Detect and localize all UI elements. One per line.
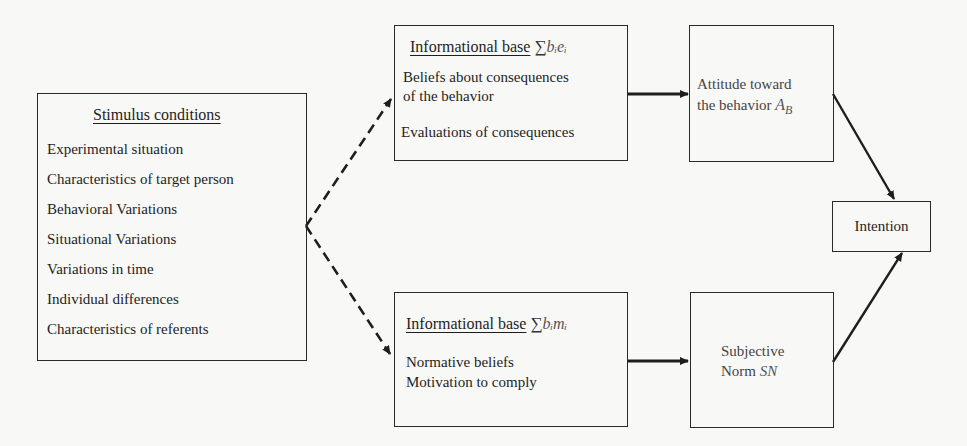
arrow-stimulus-to-info-attitude <box>306 99 391 226</box>
stimulus-item: Situational Variations <box>47 232 176 247</box>
attitude-symbol: AB <box>775 96 792 113</box>
intention-label: Intention <box>833 219 930 234</box>
subjective-norm-box: Subjective Norm SN <box>690 292 834 428</box>
info-base-norm-heading: Informational base ∑bᵢmᵢ <box>406 315 567 332</box>
info-base-attitude-line: Evaluations of consequences <box>401 125 574 140</box>
formula-bi-ei: bᵢeᵢ <box>547 38 567 55</box>
stimulus-item: Variations in time <box>47 262 154 277</box>
attitude-symbol-main: A <box>775 96 785 113</box>
arrow-stimulus-to-info-norm <box>306 226 390 354</box>
info-base-norm-box: Informational base ∑bᵢmᵢ Normative belie… <box>394 292 628 427</box>
info-base-attitude-line: of the behavior <box>403 89 494 104</box>
stimulus-title: Stimulus conditions <box>93 107 221 123</box>
attitude-symbol-sub: B <box>785 103 792 117</box>
attitude-line2-text: the behavior <box>697 97 772 113</box>
stimulus-item: Experimental situation <box>47 142 183 157</box>
info-base-attitude-box: Informational base ∑bᵢeᵢ Beliefs about c… <box>394 25 628 161</box>
stimulus-item: Behavioral Variations <box>47 202 177 217</box>
info-base-attitude-heading: Informational base ∑bᵢeᵢ <box>410 38 567 55</box>
arrow-norm-to-intention <box>833 253 902 362</box>
arrow-attitude-to-intention <box>833 94 894 199</box>
formula-bi-mi: bᵢmᵢ <box>543 315 568 332</box>
stimulus-item: Characteristics of target person <box>47 172 234 187</box>
stimulus-item: Characteristics of referents <box>47 322 209 337</box>
attitude-line2: the behavior AB <box>697 97 792 116</box>
info-base-attitude-line: Beliefs about consequences <box>403 70 569 85</box>
norm-symbol: SN <box>760 363 778 379</box>
norm-line2: Norm SN <box>721 364 777 379</box>
sigma-symbol: ∑ <box>530 314 542 333</box>
info-base-norm-line: Motivation to comply <box>406 375 537 390</box>
attitude-box: Attitude toward the behavior AB <box>689 25 834 162</box>
info-base-norm-title: Informational base <box>406 315 526 332</box>
stimulus-conditions-box: Stimulus conditions Experimental situati… <box>37 93 307 361</box>
sigma-symbol: ∑ <box>534 37 546 56</box>
intention-box: Intention <box>832 201 931 252</box>
norm-line2-text: Norm <box>721 363 756 379</box>
info-base-attitude-title: Informational base <box>410 38 530 55</box>
norm-line1: Subjective <box>721 344 784 359</box>
info-base-norm-line: Normative beliefs <box>406 355 514 370</box>
stimulus-item: Individual differences <box>47 292 179 307</box>
attitude-line1: Attitude toward <box>697 77 792 92</box>
